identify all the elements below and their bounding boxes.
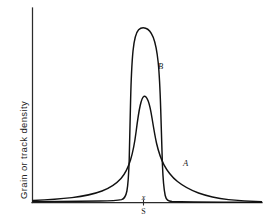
curve-a-path (33, 96, 262, 202)
x-axis-marker-bottom: S (141, 207, 145, 216)
curve-label-a: A (182, 158, 189, 168)
curve-b-path (33, 28, 262, 202)
curve-label-b: B (158, 61, 163, 71)
figure-container: A B x S Grain or track density (0, 0, 269, 224)
y-axis-title: Grain or track density (19, 39, 29, 199)
x-axis-marker-top: x (141, 193, 146, 202)
plot-canvas: A B x S (0, 0, 269, 224)
